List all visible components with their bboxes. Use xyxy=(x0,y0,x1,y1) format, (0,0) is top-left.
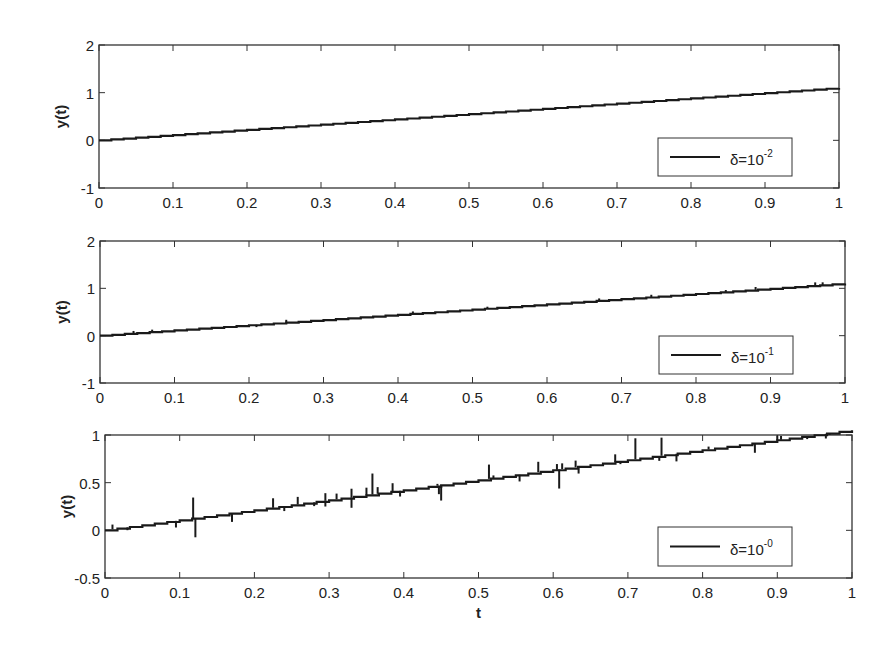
x-tick-label: 1 xyxy=(848,584,856,601)
subplot-1: 00.10.20.30.40.50.60.70.80.91-1012y(t)δ=… xyxy=(52,37,843,211)
y-axis-label: y(t) xyxy=(53,300,70,323)
x-tick-label: 0.6 xyxy=(543,584,564,601)
y-tick-label: 2 xyxy=(86,37,94,54)
x-tick-label: 0.1 xyxy=(164,389,185,406)
y-tick-label: 1 xyxy=(86,85,94,102)
y-tick-label: 0.5 xyxy=(79,475,100,492)
x-tick-label: 0.7 xyxy=(611,389,632,406)
legend: δ=10-2 xyxy=(658,138,792,176)
legend-exponent: -2 xyxy=(764,148,773,159)
x-tick-label: 0.6 xyxy=(537,389,558,406)
x-tick-label: 0.1 xyxy=(169,584,190,601)
x-tick-label: 0.2 xyxy=(237,194,258,211)
x-tick-label: 0.5 xyxy=(468,584,489,601)
x-tick-label: 0 xyxy=(96,389,104,406)
x-tick-label: 0.2 xyxy=(239,389,260,406)
x-tick-label: 1 xyxy=(841,389,849,406)
figure-canvas: 00.10.20.30.40.50.60.70.80.91-1012y(t)δ=… xyxy=(0,0,896,655)
x-tick-label: 0.9 xyxy=(760,389,781,406)
x-tick-label: 0.3 xyxy=(319,584,340,601)
y-tick-label: 0 xyxy=(86,132,94,149)
legend-exponent: -1 xyxy=(765,346,774,357)
x-tick-label: 0.5 xyxy=(459,194,480,211)
x-tick-label: 1 xyxy=(835,194,843,211)
x-tick-label: 0.3 xyxy=(311,194,332,211)
y-axis-label: y(t) xyxy=(58,495,75,518)
x-tick-label: 0.8 xyxy=(692,584,713,601)
x-tick-label: 0.7 xyxy=(607,194,628,211)
x-tick-label: 0 xyxy=(95,194,103,211)
x-tick-label: 0.7 xyxy=(617,584,638,601)
y-tick-label: 0 xyxy=(87,328,95,345)
x-tick-label: 0.8 xyxy=(686,389,707,406)
legend-exponent: -0 xyxy=(764,538,773,549)
x-tick-label: 0.4 xyxy=(388,389,409,406)
figure: 00.10.20.30.40.50.60.70.80.91-1012y(t)δ=… xyxy=(0,0,896,655)
subplot-3: 00.10.20.30.40.50.60.70.80.91-0.500.51y(… xyxy=(58,427,856,621)
x-tick-label: 0.9 xyxy=(755,194,776,211)
y-tick-label: -1 xyxy=(81,180,94,197)
x-tick-label: 0.1 xyxy=(163,194,184,211)
y-tick-label: 0 xyxy=(92,522,100,539)
y-tick-label: -1 xyxy=(82,375,95,392)
y-tick-label: 2 xyxy=(87,233,95,250)
x-tick-label: 0.2 xyxy=(244,584,265,601)
x-tick-label: 0.3 xyxy=(313,389,334,406)
subplot-2: 00.10.20.30.40.50.60.70.80.91-1012y(t)δ=… xyxy=(53,233,849,406)
x-tick-label: 0.8 xyxy=(681,194,702,211)
legend: δ=10-0 xyxy=(658,527,792,566)
y-axis-label: y(t) xyxy=(52,105,69,128)
x-tick-label: 0.4 xyxy=(393,584,414,601)
x-tick-label: 0 xyxy=(101,584,109,601)
legend: δ=10-1 xyxy=(659,336,793,374)
x-tick-label: 0.4 xyxy=(385,194,406,211)
y-tick-label: -0.5 xyxy=(74,570,100,587)
y-tick-label: 1 xyxy=(87,280,95,297)
x-axis-label: t xyxy=(476,604,481,621)
x-tick-label: 0.6 xyxy=(533,194,554,211)
x-tick-label: 0.9 xyxy=(767,584,788,601)
x-tick-label: 0.5 xyxy=(462,389,483,406)
y-tick-label: 1 xyxy=(92,427,100,444)
